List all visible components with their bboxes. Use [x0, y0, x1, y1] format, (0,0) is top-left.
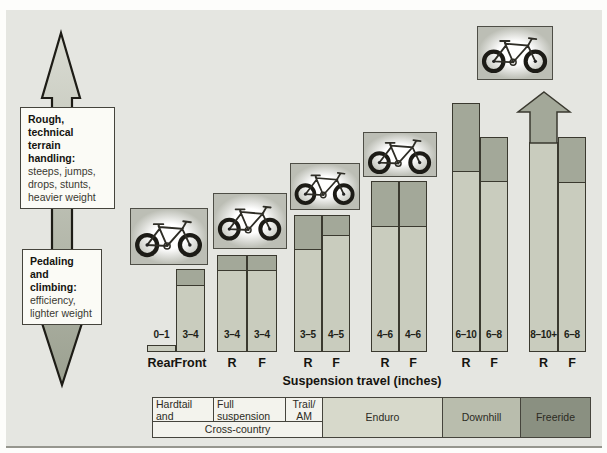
hardtail-mountain-bike-icon [130, 208, 208, 265]
enduro-bike-icon [363, 132, 437, 177]
table-cell-trail-am: Trail/AM [285, 397, 323, 422]
travel-range-enduro-f: 4–6 [393, 329, 433, 340]
table-cell-hardtail-and-softtail: Hardtail andsofttail [152, 397, 214, 422]
bar-range-cap [295, 216, 321, 250]
travel-range-trail-am-f: 4–5 [316, 329, 356, 340]
table-cell-cross-country: Cross-country [152, 421, 323, 438]
bar-enduro-r [371, 181, 399, 352]
full-suspension-race-bike-icon [213, 193, 287, 249]
pedaling-climbing-note: Pedaling andclimbing: efficiency,lighter… [22, 249, 102, 325]
bar-range-cap [400, 182, 426, 227]
axis-label-freeride-f: F [550, 356, 594, 370]
bar-freeride-f [558, 137, 586, 352]
travel-range-freeride-f: 6–8 [552, 329, 592, 340]
terrain-handling-details: steeps, jumps,drops, stunts,heavier weig… [28, 165, 107, 204]
bar-downhill-f [480, 137, 508, 352]
axis-label-enduro-f: F [391, 356, 435, 370]
suspension-travel-figure: Rough, technicalterrain handling: steeps… [0, 0, 607, 453]
x-axis-title: Suspension travel (inches) [262, 374, 462, 388]
terrain-handling-note: Rough, technicalterrain handling: steeps… [20, 107, 115, 209]
bar-range-cap [248, 256, 276, 271]
bar-downhill-r [452, 103, 480, 352]
bar-hardtail-and-softtail-rear [147, 345, 176, 352]
table-cell-enduro: Enduro [322, 397, 443, 438]
bar-range-cap [453, 104, 479, 172]
freeride-bike-icon [477, 26, 553, 80]
table-cell-freeride: Freeride [520, 397, 591, 438]
bar-range-cap [481, 138, 507, 182]
bar-range-cap [218, 256, 246, 271]
travel-range-full-suspension-race-f: 3–4 [242, 329, 282, 340]
travel-range-hardtail-and-softtail-front: 3–4 [171, 329, 211, 340]
axis-label-full-suspension-race-f: F [240, 356, 284, 370]
pedaling-climbing-details: efficiency,lighter weight [30, 294, 94, 320]
bar-range-cap [372, 182, 398, 227]
table-cell-downhill: Downhill [442, 397, 521, 438]
terrain-handling-title: Rough, technicalterrain handling: [28, 113, 107, 165]
axis-label-hardtail-and-softtail-front: Front [169, 356, 213, 370]
axis-label-trail-am-f: F [314, 356, 358, 370]
bar-range-cap [559, 138, 585, 183]
bar-freeride-r [529, 142, 558, 352]
axis-label-downhill-f: F [472, 356, 516, 370]
bar-enduro-f [399, 181, 427, 352]
bar-range-cap [323, 216, 349, 236]
pedaling-climbing-title: Pedaling andclimbing: [30, 255, 94, 294]
table-cell-full-suspension-race: Full suspensionrace [213, 397, 286, 422]
bar-range-cap [177, 270, 204, 286]
travel-range-downhill-f: 6–8 [474, 329, 514, 340]
trail-am-bike-icon [290, 163, 360, 210]
